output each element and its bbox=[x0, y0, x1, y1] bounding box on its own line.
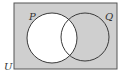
set-p-label: P bbox=[28, 11, 36, 22]
universal-set-label: U bbox=[4, 61, 13, 71]
set-q-label: Q bbox=[105, 11, 113, 22]
venn-diagram: P Q U bbox=[0, 0, 118, 71]
